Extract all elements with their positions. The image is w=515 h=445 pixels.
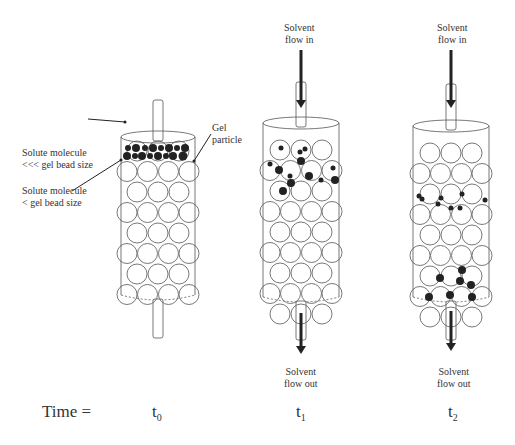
time-t1: t1 [296,402,306,423]
label-flow-out-2: Solventflow out [437,366,471,390]
label-solute-small: Solute molecule< gel bead size [22,185,87,209]
label-gel-particle: Gelparticle [212,122,242,146]
label-flow-out-1: Solventflow out [284,366,318,390]
time-label: Time = [42,402,91,422]
label-solute-large: Solute molecule<<< gel bead size [22,147,93,171]
label-flow-in-2: Solventflow in [437,22,468,46]
label-flow-in-1: Solventflow in [284,22,315,46]
time-t0: t0 [152,402,162,423]
time-t2: t2 [448,402,458,423]
